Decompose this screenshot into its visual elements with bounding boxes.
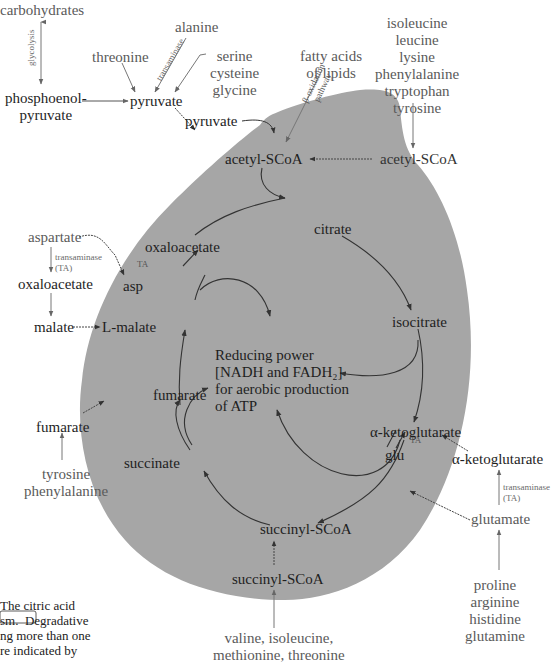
serine-arrow: [175, 54, 206, 92]
label-succinyl-scoa-inner: succinyl-SCoA: [260, 522, 352, 537]
label-aspartate: aspartate: [28, 230, 81, 245]
label-glutamate: glutamate: [471, 512, 530, 527]
label-glu: glu: [385, 448, 404, 463]
label-fumarate-outer: fumarate: [36, 420, 89, 435]
label-pyruvate-outer: pyruvate: [130, 94, 182, 109]
label-malate-outer: malate: [34, 320, 74, 335]
label-ta-left: TA: [137, 260, 148, 269]
label-succinyl-scoa-outer: succinyl-SCoA: [232, 572, 324, 587]
label-glutamate-family: proline arginine histidine glutamine: [465, 577, 525, 645]
label-alanine: alanine: [175, 20, 218, 35]
label-acetyl-scoa-inner: acetyl-SCoA: [225, 152, 302, 167]
label-tyrosine-phenylalanine: tyrosine phenylalanine: [24, 466, 108, 500]
label-isocitrate: isocitrate: [392, 315, 447, 330]
label-carbohydrates: carbohydrates: [0, 3, 84, 18]
label-acetyl-scoa-outer: acetyl-SCoA: [380, 152, 457, 167]
label-succinate: succinate: [124, 456, 180, 471]
label-transaminase-left: transaminase (TA): [55, 252, 102, 274]
threonine-arrow: [122, 63, 135, 92]
label-citrate: citrate: [314, 222, 351, 237]
label-l-malate: L-malate: [102, 320, 156, 335]
label-serine-cysteine-glycine: serine cysteine glycine: [210, 48, 259, 99]
label-reducing-power: Reducing power [NADH and FADH₂] for aero…: [215, 347, 349, 415]
label-succinyl-family: valine, isoleucine, methionine, threonin…: [213, 630, 345, 664]
label-transaminase-right: transaminase (TA): [503, 482, 550, 504]
label-threonine: threonine: [92, 50, 149, 65]
label-alpha-ketoglutarate-outer: α-ketoglutarate: [452, 452, 543, 467]
label-ketogenic-amino-acids: isoleucine leucine lysine phenylalanine …: [375, 15, 459, 117]
label-ta-right: TA: [410, 436, 421, 445]
label-glycolysis: glycolysis: [27, 29, 36, 66]
figure-caption-fragment: The citric acid sm. Degradative ng more …: [0, 598, 91, 658]
label-pyruvate-inner: pyruvate: [185, 114, 237, 129]
label-asp: asp: [123, 279, 143, 294]
label-oxaloacetate-inner: oxaloacetate: [145, 240, 220, 255]
label-fumarate-inner: fumarate: [153, 388, 206, 403]
label-phosphoenolpyruvate: phosphoenol- pyruvate: [5, 90, 87, 124]
label-oxaloacetate-outer: oxaloacetate: [18, 277, 93, 292]
